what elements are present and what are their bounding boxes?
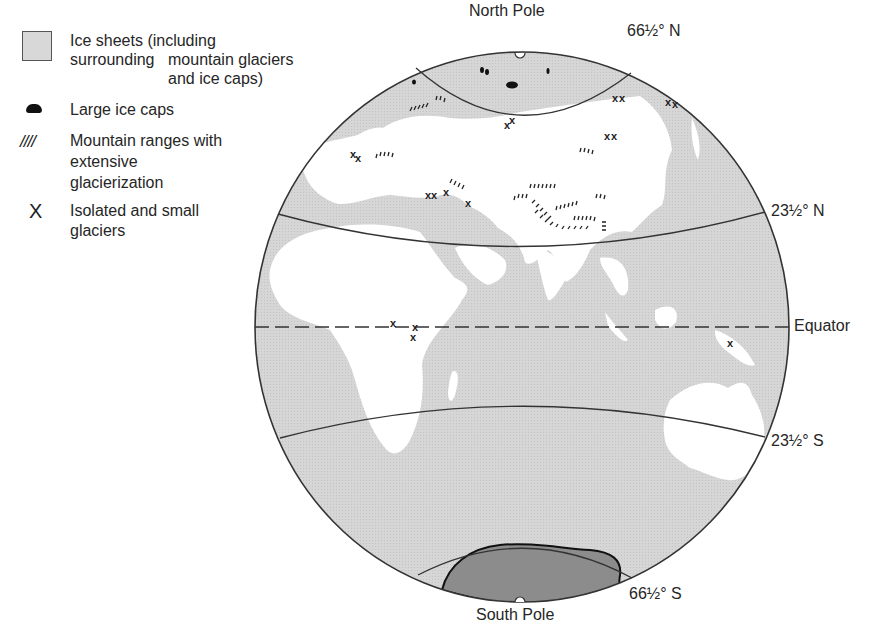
svg-text:x: x [619, 92, 626, 104]
svg-text:x: x [665, 96, 672, 108]
north-pole-label: North Pole [469, 2, 545, 20]
svg-text:x: x [355, 152, 362, 164]
equator-label: Equator [794, 317, 850, 335]
svg-text:x: x [509, 114, 516, 126]
svg-text:x: x [443, 186, 450, 198]
svg-text:x: x [390, 317, 397, 329]
svg-text:x: x [672, 98, 679, 110]
tropic-capricorn-label: 23½° S [771, 432, 824, 450]
svg-text:x: x [465, 197, 472, 209]
arctic-circle-label: 66½° N [627, 22, 681, 40]
svg-text:x: x [612, 92, 619, 104]
svg-text:x: x [727, 337, 734, 349]
south-pole-label: South Pole [476, 606, 554, 624]
tropic-cancer-label: 23½° N [771, 202, 825, 220]
svg-text:x: x [410, 331, 417, 343]
svg-text:x: x [431, 189, 438, 201]
globe-map: xx xx xx xx xx xx x x x x x x [0, 0, 883, 642]
north-pole-marker-icon [515, 53, 525, 58]
south-pole-marker-icon [515, 597, 525, 602]
antarctic-circle-label: 66½° S [629, 585, 682, 603]
svg-text:x: x [604, 130, 611, 142]
land-antarctica [442, 544, 620, 608]
svg-text:x: x [611, 130, 618, 142]
